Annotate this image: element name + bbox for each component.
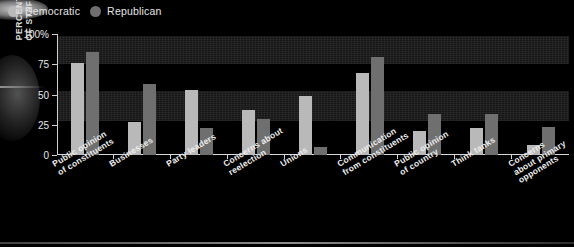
x-label-cell: Communicationfrom constituents [341,159,398,247]
screen-glare-left-axis [0,55,40,141]
y-tick-label: 0 [43,150,49,161]
screen-bottom-edge [0,242,574,244]
x-label-cell: Businesses [114,159,171,247]
y-tick-label: 25 [38,119,49,130]
screen-glare-streak [0,86,46,88]
y-tick-label: 75 [38,59,49,70]
bar-group [114,34,171,155]
x-label-cell: Concerns aboutreelection [228,159,285,247]
x-axis-labels: Public opinionof constituentsBusinessesP… [57,159,569,247]
legend-item-republican[interactable]: Republican [90,5,162,17]
x-label-cell: Public opinionof country [398,159,455,247]
bar-group [285,34,342,155]
legend-label-republican: Republican [107,5,162,17]
x-label-cell: Think tanks [455,159,512,247]
bar-group [171,34,228,155]
y-tick-label: 50 [38,89,49,100]
circle-icon [90,6,101,17]
x-label-cell: Party leaders [171,159,228,247]
x-label-cell: Concernsabout primaryopponents [512,159,569,247]
y-tick-label: 100% [23,29,49,40]
x-label-cell: Unions [285,159,342,247]
x-label-cell: Public opinionof constituents [57,159,114,247]
bar-republican[interactable] [314,147,327,155]
bar-group [455,34,512,155]
